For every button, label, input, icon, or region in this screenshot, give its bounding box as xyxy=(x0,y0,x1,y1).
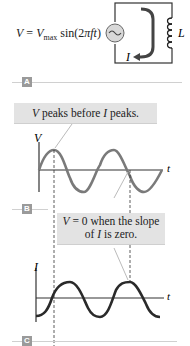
current-graph xyxy=(36,248,164,322)
voltage-equation: V = Vmax sin(2πft) xyxy=(16,26,101,42)
callout-line2-pre: of xyxy=(85,228,97,240)
panel-label-b: B xyxy=(22,204,32,214)
equation-ft: ft xyxy=(90,26,97,40)
callout-v-peaks: V peaks before I peaks. xyxy=(14,103,157,124)
callout-end: peaks. xyxy=(107,107,139,119)
y-axis-label-v: V xyxy=(34,131,41,146)
diagram-graphics xyxy=(0,0,190,346)
callout-v-zero: V = 0 when the slope of I is zero. xyxy=(57,213,165,245)
callout-line-2: of I is zero. xyxy=(57,228,165,241)
panel-label-a-top: A xyxy=(22,77,32,87)
callout-v2: V xyxy=(63,215,70,227)
x-axis-label-t-c: t xyxy=(167,290,170,302)
callout-v: V xyxy=(32,107,39,119)
x-axis-label-t-b: t xyxy=(167,162,170,174)
current-curve xyxy=(36,282,160,317)
inductor-label: L xyxy=(178,26,185,41)
current-arrow-icon xyxy=(137,9,153,57)
current-label: I xyxy=(126,50,130,65)
panel-label-c: C xyxy=(22,336,32,346)
divider-c xyxy=(12,341,177,342)
voltage-curve xyxy=(39,150,162,192)
divider-a xyxy=(12,82,182,83)
callout-mid: peaks before xyxy=(39,107,103,119)
equation-equals: = xyxy=(23,26,36,40)
equation-sin: sin(2 xyxy=(57,26,84,40)
callout-line2-end: is zero. xyxy=(101,228,137,240)
circuit xyxy=(106,3,176,63)
y-axis-label-i: I xyxy=(34,260,38,275)
equation-vmax-sub: max xyxy=(43,33,57,42)
callout-line1-text: = 0 when the slope xyxy=(70,215,160,227)
callout-line-1: V = 0 when the slope xyxy=(57,215,165,228)
equation-close: ) xyxy=(97,26,101,40)
